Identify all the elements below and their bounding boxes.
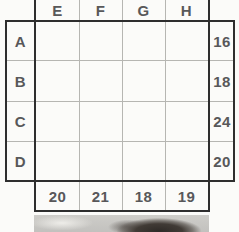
grid-cell-d-f[interactable] <box>80 142 122 180</box>
grid-cell-a-e[interactable] <box>36 22 78 60</box>
grid-cell-c-g[interactable] <box>123 102 165 140</box>
puzzle-page: E F G H A B C D 16 18 24 20 20 21 18 19 <box>0 0 239 232</box>
col-header-e: E <box>36 0 79 20</box>
grid-cell-a-g[interactable] <box>123 22 165 60</box>
row-total-b: 18 <box>210 62 234 101</box>
col-header-g: G <box>122 0 165 20</box>
grid-cell-d-e[interactable] <box>36 142 78 180</box>
col-header-f: F <box>79 0 122 20</box>
grid-cell-c-h[interactable] <box>166 102 208 140</box>
grid-cell-c-e[interactable] <box>36 102 78 140</box>
col-total-g: 18 <box>122 183 165 209</box>
grid-cell-b-e[interactable] <box>36 62 78 100</box>
grid-cell-b-h[interactable] <box>166 62 208 100</box>
row-header-c: C <box>7 102 34 141</box>
totals-row-border <box>34 210 210 212</box>
grid-cell-d-h[interactable] <box>166 142 208 180</box>
col-total-h: 19 <box>165 183 208 209</box>
row-header-a: A <box>7 22 34 61</box>
grid-cell-b-g[interactable] <box>123 62 165 100</box>
row-total-d: 20 <box>210 142 234 181</box>
grid-cell-c-f[interactable] <box>80 102 122 140</box>
grid-cell-a-f[interactable] <box>80 22 122 60</box>
col-total-f: 21 <box>79 183 122 209</box>
grid-cell-d-g[interactable] <box>123 142 165 180</box>
row-total-a: 16 <box>210 22 234 61</box>
grid-cell-a-h[interactable] <box>166 22 208 60</box>
row-total-c: 24 <box>210 102 234 141</box>
grid-cell-b-f[interactable] <box>80 62 122 100</box>
row-header-d: D <box>7 142 34 181</box>
col-header-h: H <box>165 0 208 20</box>
col-total-e: 20 <box>36 183 79 209</box>
partial-photo-top-of-head <box>34 215 209 232</box>
row-header-b: B <box>7 62 34 101</box>
